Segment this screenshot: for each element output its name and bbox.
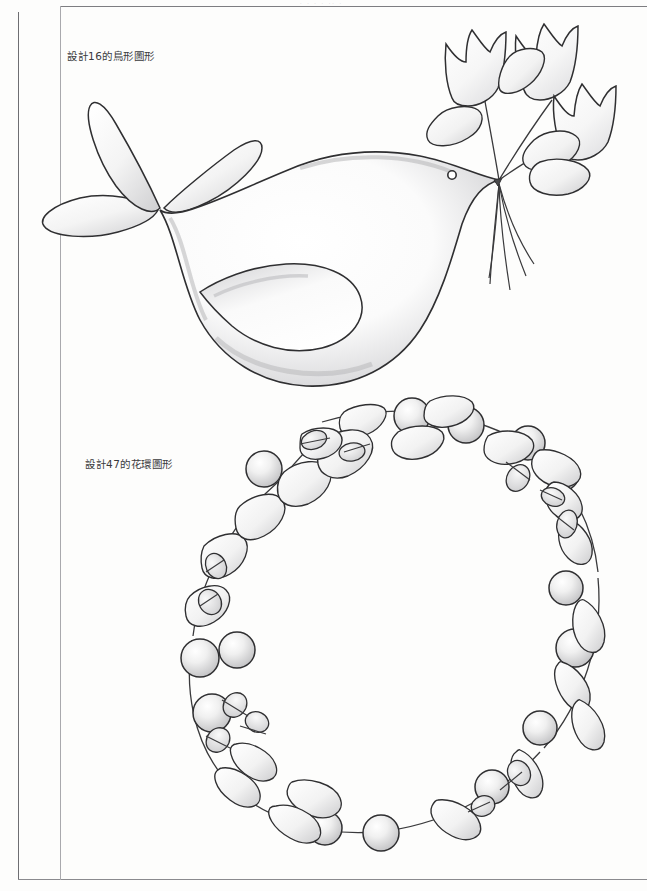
scanned-pattern-page: · · · · ·· · 設計16的鳥形圖形 設計47的花環圖形 bbox=[0, 0, 647, 891]
berry-7 bbox=[523, 711, 557, 745]
pattern-artwork bbox=[0, 0, 647, 891]
bud-9 bbox=[242, 708, 272, 736]
leaf-2 bbox=[391, 426, 443, 459]
leaf-10 bbox=[572, 700, 605, 750]
tulip-leaf-4 bbox=[529, 159, 589, 195]
bud-3 bbox=[501, 460, 534, 495]
tulip-flowers bbox=[445, 24, 616, 160]
design-47-wreath-group bbox=[181, 396, 605, 851]
leaf-19 bbox=[235, 494, 285, 539]
berry-12 bbox=[181, 639, 219, 677]
berry-5 bbox=[549, 571, 583, 605]
tulip-leaf-2 bbox=[427, 107, 482, 146]
tulip-flower-1 bbox=[445, 30, 506, 106]
beak-hanging-stems bbox=[489, 184, 534, 290]
bird-eye bbox=[448, 171, 456, 179]
berry-13 bbox=[219, 632, 255, 668]
design-16-bird-group bbox=[43, 24, 616, 386]
berry-9 bbox=[363, 815, 399, 851]
berry-14 bbox=[246, 451, 282, 487]
